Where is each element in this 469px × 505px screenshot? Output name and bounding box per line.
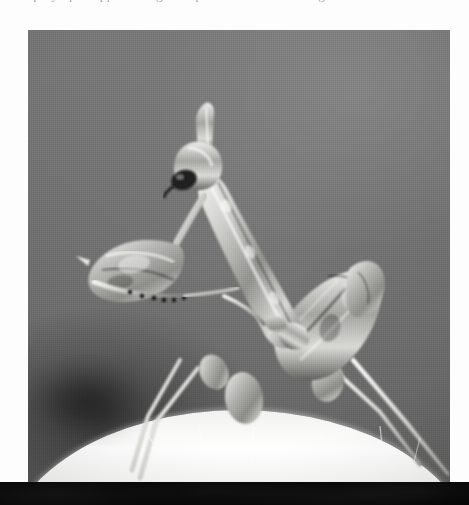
shadow-blob [28,362,148,438]
clipped-text-line: of prey upon approaching the tips of the… [0,0,469,13]
scan-black-band [0,482,469,505]
clipped-text-line-content: of prey upon approaching the tips of the… [18,0,448,2]
mantis-figure [28,30,450,482]
head [164,102,222,198]
substrate-hairs [146,424,420,472]
hindleg-right [353,360,448,474]
prothorax [198,175,302,349]
mantis-photograph [28,30,450,482]
hindleg-left [140,368,198,478]
scanned-page: of prey upon approaching the tips of the… [0,0,469,505]
